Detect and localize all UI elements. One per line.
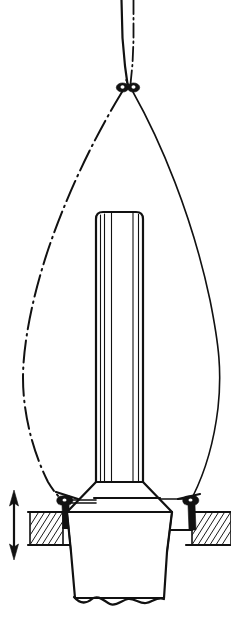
technical-drawing bbox=[0, 0, 231, 619]
shackle-right-eye bbox=[132, 85, 136, 88]
left-bracket-eye bbox=[63, 498, 67, 501]
mast-column-group bbox=[96, 212, 143, 482]
lower-body-group bbox=[67, 512, 172, 605]
lower-body-outline bbox=[67, 512, 172, 598]
drawing-canvas bbox=[0, 0, 231, 619]
shackle-left-eye bbox=[121, 85, 125, 88]
mast-outline bbox=[96, 212, 143, 482]
right-bracket-eye bbox=[189, 498, 193, 501]
